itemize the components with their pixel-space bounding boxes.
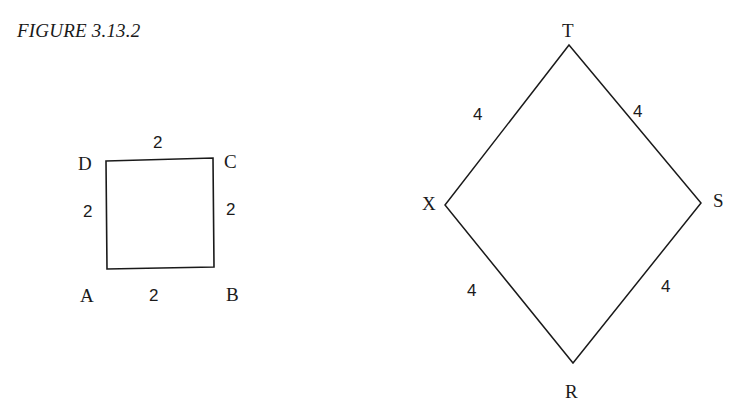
side-label-xt: 4 (473, 105, 482, 124)
side-label-rs: 4 (661, 277, 670, 296)
vertex-label-c: C (224, 151, 237, 172)
side-label-ts: 4 (633, 102, 642, 121)
vertex-label-x: X (422, 193, 436, 214)
vertex-label-t: T (562, 20, 574, 41)
square-abcd (106, 158, 214, 269)
geometry-diagram: D C A B 2 2 2 2 T S R X 4 4 4 4 (0, 0, 748, 420)
side-label-dc: 2 (153, 133, 162, 152)
rhombus-tsrx (445, 45, 701, 363)
side-label-ab: 2 (149, 286, 158, 305)
vertex-label-a: A (80, 285, 94, 306)
vertex-label-s: S (713, 190, 724, 211)
vertex-label-r: R (565, 381, 578, 402)
vertex-label-d: D (78, 153, 92, 174)
side-label-cb: 2 (226, 200, 235, 219)
side-label-da: 2 (83, 202, 92, 221)
vertex-label-b: B (226, 284, 239, 305)
side-label-xr: 4 (467, 281, 476, 300)
